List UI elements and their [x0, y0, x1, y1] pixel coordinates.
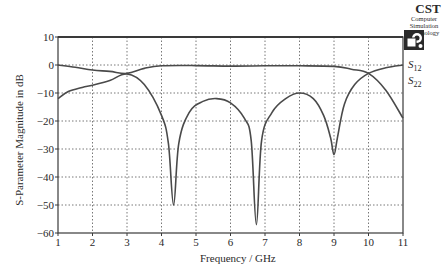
svg-text:10: 10	[363, 236, 375, 248]
legend-s22: S22	[408, 74, 422, 89]
y-axis-label: S-Parameter Magnitude in dB	[13, 55, 25, 225]
svg-text:2: 2	[90, 236, 96, 248]
svg-text:1: 1	[55, 236, 61, 248]
cst-logo-icon	[404, 30, 424, 50]
x-axis-label: Frequency / GHz	[200, 252, 276, 264]
chart-plot: 1234567891011100−10−20−30−40−50−60	[0, 0, 448, 277]
data-series	[58, 65, 403, 225]
svg-text:−10: −10	[37, 87, 55, 99]
cst-logo-title: CST	[408, 2, 448, 15]
svg-text:5: 5	[193, 236, 199, 248]
svg-text:10: 10	[43, 31, 55, 43]
svg-text:−50: −50	[37, 199, 55, 211]
svg-text:6: 6	[228, 236, 234, 248]
svg-text:11: 11	[398, 236, 409, 248]
svg-text:7: 7	[262, 236, 268, 248]
legend-s12: S12	[408, 58, 422, 73]
svg-text:8: 8	[297, 236, 303, 248]
svg-text:4: 4	[159, 236, 165, 248]
cst-logo-subtitle-line1: Computer Simulation	[400, 15, 448, 29]
svg-text:−40: −40	[37, 171, 55, 183]
svg-text:−60: −60	[37, 227, 55, 239]
svg-text:−30: −30	[37, 143, 55, 155]
svg-text:−20: −20	[37, 115, 55, 127]
svg-text:9: 9	[331, 236, 337, 248]
series-s22	[58, 65, 403, 225]
svg-text:3: 3	[124, 236, 130, 248]
svg-text:0: 0	[49, 59, 55, 71]
